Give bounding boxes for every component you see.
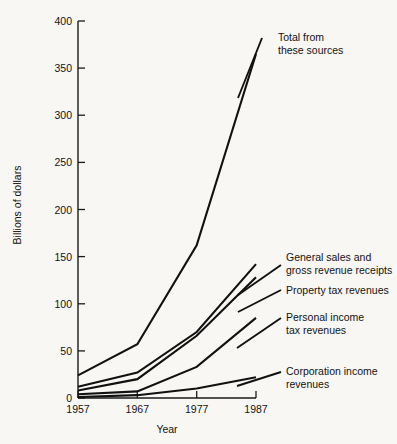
x-tick-label-1977: 1977	[185, 403, 209, 415]
x-axis-title: Year	[156, 423, 178, 435]
annotation-general-sales: General sales and gross revenue receipts	[286, 251, 392, 276]
x-tick-label-1987: 1987	[244, 403, 268, 415]
annotation-corporation-income-line1: Corporation income	[286, 365, 378, 377]
annotation-corporation-income-line2: revenues	[286, 378, 329, 390]
leader-line-general-sales	[238, 265, 281, 295]
x-tick-label-1967: 1967	[126, 403, 150, 415]
y-tick-label-350: 350	[54, 62, 72, 74]
annotation-total-line1: Total from	[278, 31, 324, 43]
y-tick-label-50: 50	[60, 345, 72, 357]
series-line-general-sales	[78, 264, 256, 387]
annotation-property-tax: Property tax revenues	[286, 284, 389, 296]
leader-line-property-tax	[238, 290, 281, 312]
y-axis-title: Billions of dollars	[11, 166, 23, 245]
annotation-general-sales-line1: General sales and	[286, 251, 371, 263]
chart-figure: 400 350 300 250 200 150 100 50 0 1957 19…	[0, 0, 397, 444]
series-line-total	[78, 54, 256, 375]
leader-line-total	[238, 38, 262, 98]
annotation-personal-income-tax-line2: tax revenues	[286, 324, 346, 336]
y-tick-label-200: 200	[54, 204, 72, 216]
annotation-general-sales-line2: gross revenue receipts	[286, 264, 392, 276]
y-tick-label-150: 150	[54, 251, 72, 263]
annotation-property-tax-line1: Property tax revenues	[286, 284, 389, 296]
annotation-personal-income-tax: Personal income tax revenues	[286, 311, 364, 336]
y-tick-label-250: 250	[54, 156, 72, 168]
x-tick-label-1957: 1957	[66, 403, 90, 415]
annotation-personal-income-tax-line1: Personal income	[286, 311, 364, 323]
annotation-corporation-income: Corporation income revenues	[286, 365, 378, 390]
y-tick-label-100: 100	[54, 298, 72, 310]
chart-canvas: 400 350 300 250 200 150 100 50 0 1957 19…	[0, 0, 397, 444]
annotation-total-line2: these sources	[278, 44, 343, 56]
y-tick-label-400: 400	[54, 15, 72, 27]
y-tick-label-300: 300	[54, 109, 72, 121]
y-axis-ticks	[78, 21, 85, 398]
annotation-total: Total from these sources	[278, 31, 343, 56]
leader-line-personal-income-tax	[237, 318, 281, 348]
